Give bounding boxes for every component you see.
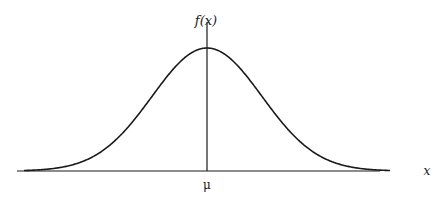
normal-distribution-chart: f(x) μ x (0, 0, 444, 203)
x-axis-label: x (424, 164, 431, 178)
mean-label: μ (203, 178, 211, 192)
y-axis-label: f(x) (194, 13, 217, 28)
